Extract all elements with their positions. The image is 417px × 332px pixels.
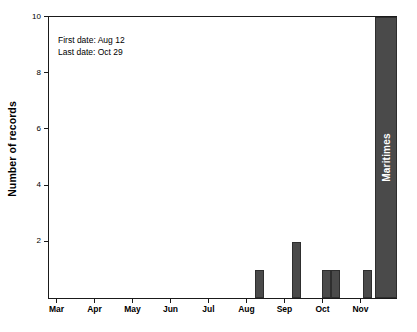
x-axis-tick: Jul [208,298,209,303]
x-axis-tick: Nov [360,298,361,303]
y-axis-tick-label: 10 [32,13,41,21]
y-axis-title-text: Number of records [6,101,18,197]
chart-figure: Number of records 246810 MarAprMayJunJul… [0,0,417,332]
x-axis-tick-label: Jul [202,305,214,314]
x-axis-tick-label: Mar [49,305,64,314]
x-axis-tick-label: Oct [315,305,329,314]
bar [331,270,340,298]
x-axis-tick-label: May [124,305,141,314]
y-axis-tick-label: 6 [37,125,41,133]
x-axis-tick: Mar [56,298,57,303]
x-axis-tick: Jun [170,298,171,303]
x-axis-tick: Aug [246,298,247,303]
y-axis-tick: 2 [44,241,49,242]
x-axis-tick-label: Apr [87,305,102,314]
y-axis-tick: 4 [44,185,49,186]
x-axis-tick-label: Nov [352,305,368,314]
y-axis-tick: 8 [44,72,49,73]
plot-area: 246810 MarAprMayJunJulAugSepOctNov Marit… [48,16,397,299]
x-axis-tick-label: Sep [277,305,293,314]
total-bar: Maritimes [375,17,397,298]
x-axis-tick-label: Aug [238,305,255,314]
bar [255,270,264,298]
y-axis-tick: 6 [44,128,49,129]
x-axis-tick-label: Jun [163,305,178,314]
x-axis-tick: Sep [284,298,285,303]
total-bar-label: Maritimes [381,133,392,182]
bar [322,270,331,298]
x-axis-tick: Oct [322,298,323,303]
bar [292,242,301,298]
y-axis-tick: 10 [44,16,49,17]
x-axis-tick: May [132,298,133,303]
y-axis-tick-label: 2 [37,237,41,245]
y-axis-title: Number of records [2,0,22,297]
y-axis-tick-label: 8 [37,69,41,77]
y-axis-tick-label: 4 [37,181,41,189]
x-axis-tick: Apr [94,298,95,303]
bar [363,270,372,298]
